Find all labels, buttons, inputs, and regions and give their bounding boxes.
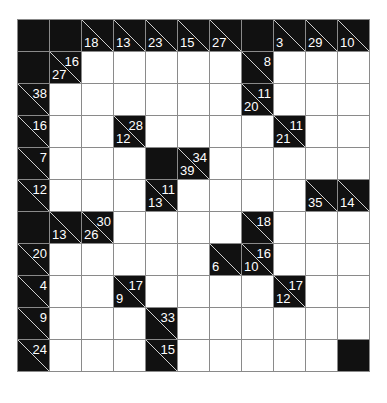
entry-cell[interactable] (338, 52, 370, 84)
entry-cell[interactable] (82, 84, 114, 116)
down-clue: 13 (148, 196, 162, 209)
clue-cell: 12 (18, 180, 50, 212)
entry-cell[interactable] (274, 308, 306, 340)
entry-cell[interactable] (242, 308, 274, 340)
entry-cell[interactable] (50, 116, 82, 148)
entry-cell[interactable] (210, 180, 242, 212)
entry-cell[interactable] (242, 116, 274, 148)
entry-cell[interactable] (82, 52, 114, 84)
entry-cell[interactable] (306, 212, 338, 244)
entry-cell[interactable] (178, 308, 210, 340)
entry-cell[interactable] (274, 148, 306, 180)
entry-cell[interactable] (338, 244, 370, 276)
entry-cell[interactable] (146, 116, 178, 148)
down-clue: 10 (244, 260, 258, 273)
entry-cell[interactable] (274, 84, 306, 116)
entry-cell[interactable] (210, 148, 242, 180)
entry-cell[interactable] (178, 84, 210, 116)
entry-cell[interactable] (82, 340, 114, 372)
entry-cell[interactable] (146, 276, 178, 308)
entry-cell[interactable] (50, 84, 82, 116)
entry-cell[interactable] (338, 148, 370, 180)
entry-cell[interactable] (82, 276, 114, 308)
entry-cell[interactable] (178, 180, 210, 212)
entry-cell[interactable] (210, 276, 242, 308)
clue-cell: 14 (338, 180, 370, 212)
blocked-cell (18, 20, 50, 52)
entry-cell[interactable] (114, 212, 146, 244)
entry-cell[interactable] (306, 52, 338, 84)
entry-cell[interactable] (274, 340, 306, 372)
entry-cell[interactable] (178, 340, 210, 372)
entry-cell[interactable] (50, 148, 82, 180)
entry-cell[interactable] (306, 244, 338, 276)
entry-cell[interactable] (82, 116, 114, 148)
entry-cell[interactable] (146, 52, 178, 84)
entry-cell[interactable] (146, 244, 178, 276)
entry-cell[interactable] (114, 52, 146, 84)
entry-cell[interactable] (338, 84, 370, 116)
across-clue: 16 (65, 55, 79, 68)
entry-cell[interactable] (114, 84, 146, 116)
entry-cell[interactable] (306, 340, 338, 372)
entry-cell[interactable] (178, 276, 210, 308)
entry-cell[interactable] (306, 148, 338, 180)
entry-cell[interactable] (82, 244, 114, 276)
entry-cell[interactable] (306, 84, 338, 116)
across-clue: 7 (40, 151, 47, 164)
entry-cell[interactable] (210, 116, 242, 148)
entry-cell[interactable] (274, 212, 306, 244)
entry-cell[interactable] (274, 180, 306, 212)
across-clue: 15 (161, 343, 175, 356)
entry-cell[interactable] (210, 340, 242, 372)
entry-cell[interactable] (114, 244, 146, 276)
entry-cell[interactable] (114, 148, 146, 180)
clue-cell: 3439 (178, 148, 210, 180)
entry-cell[interactable] (274, 244, 306, 276)
down-clue: 9 (116, 292, 123, 305)
entry-cell[interactable] (306, 116, 338, 148)
entry-cell[interactable] (210, 84, 242, 116)
clue-cell: 33 (146, 308, 178, 340)
across-clue: 17 (129, 279, 143, 292)
entry-cell[interactable] (50, 244, 82, 276)
entry-cell[interactable] (274, 52, 306, 84)
entry-cell[interactable] (82, 308, 114, 340)
entry-cell[interactable] (242, 276, 274, 308)
entry-cell[interactable] (82, 180, 114, 212)
down-clue: 13 (52, 228, 66, 241)
down-clue: 13 (116, 36, 130, 49)
entry-cell[interactable] (178, 212, 210, 244)
down-clue: 26 (84, 228, 98, 241)
entry-cell[interactable] (114, 180, 146, 212)
entry-cell[interactable] (50, 308, 82, 340)
entry-cell[interactable] (306, 276, 338, 308)
entry-cell[interactable] (50, 340, 82, 372)
entry-cell[interactable] (210, 52, 242, 84)
across-clue: 16 (257, 247, 271, 260)
entry-cell[interactable] (146, 84, 178, 116)
entry-cell[interactable] (338, 276, 370, 308)
entry-cell[interactable] (178, 244, 210, 276)
entry-cell[interactable] (146, 212, 178, 244)
across-clue: 12 (33, 183, 47, 196)
entry-cell[interactable] (178, 52, 210, 84)
entry-cell[interactable] (178, 116, 210, 148)
down-clue: 20 (244, 100, 258, 113)
entry-cell[interactable] (242, 148, 274, 180)
entry-cell[interactable] (210, 212, 242, 244)
entry-cell[interactable] (210, 308, 242, 340)
entry-cell[interactable] (338, 308, 370, 340)
blocked-cell (50, 20, 82, 52)
entry-cell[interactable] (242, 340, 274, 372)
entry-cell[interactable] (82, 148, 114, 180)
entry-cell[interactable] (114, 340, 146, 372)
entry-cell[interactable] (50, 276, 82, 308)
down-clue: 21 (276, 132, 290, 145)
entry-cell[interactable] (50, 180, 82, 212)
entry-cell[interactable] (242, 180, 274, 212)
entry-cell[interactable] (306, 308, 338, 340)
entry-cell[interactable] (338, 212, 370, 244)
entry-cell[interactable] (114, 308, 146, 340)
entry-cell[interactable] (338, 116, 370, 148)
